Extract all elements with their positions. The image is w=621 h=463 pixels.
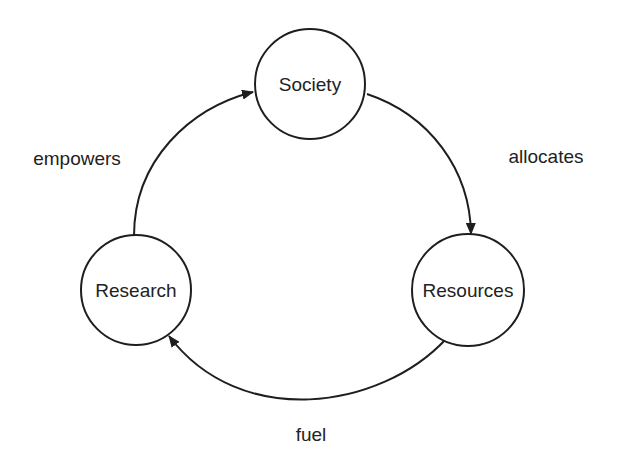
edge-label-allocates: allocates [509, 146, 584, 167]
edge-resources-to-research [169, 336, 446, 400]
edge-society-to-resources [367, 94, 471, 234]
resources-label: Resources [423, 280, 514, 301]
edge-research-to-society [134, 92, 253, 236]
cycle-diagram: Society Research Resources empowers allo… [0, 0, 621, 463]
edge-label-empowers: empowers [33, 148, 121, 169]
edge-label-fuel: fuel [296, 424, 327, 445]
society-label: Society [279, 74, 342, 95]
node-research: Research [81, 235, 191, 345]
node-society: Society [255, 29, 365, 139]
node-resources: Resources [412, 234, 524, 346]
research-label: Research [95, 280, 176, 301]
